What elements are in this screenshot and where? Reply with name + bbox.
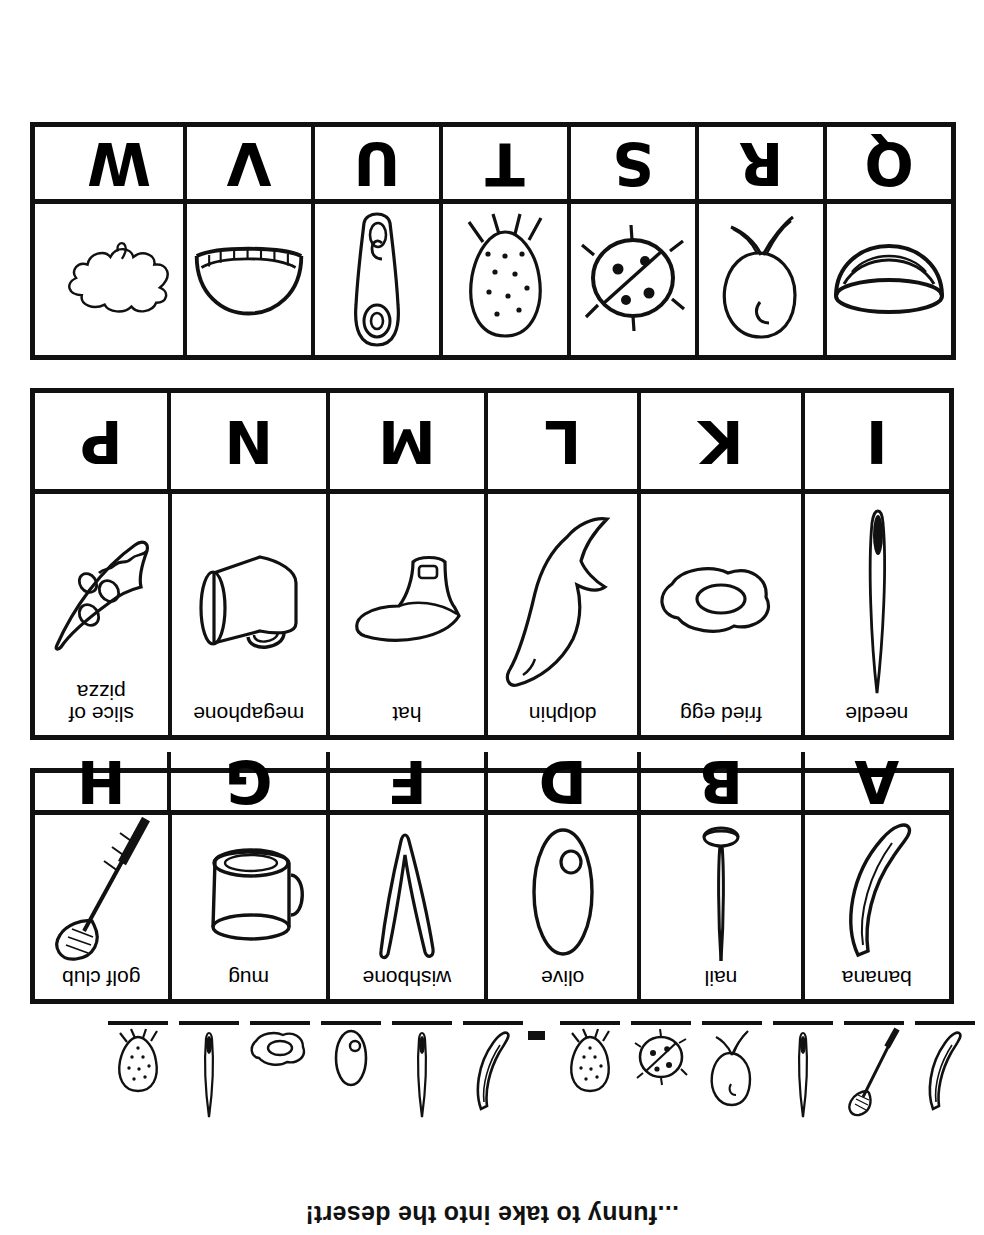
answer-separator: [524, 1021, 550, 1147]
picture-row: [35, 204, 951, 355]
ladybug-icon: [573, 206, 693, 351]
picture-label: wishbone: [363, 967, 452, 995]
picture-cell-g: mug: [168, 815, 326, 999]
picture-cell-i: needle: [801, 494, 949, 735]
answer-blank[interactable]: [179, 1021, 239, 1025]
picture-cell-s: [567, 204, 695, 355]
answer-slot[interactable]: [178, 1021, 240, 1147]
answer-slot[interactable]: [701, 1021, 763, 1147]
strawberry-icon: [111, 1027, 165, 1123]
bowl-icon: [829, 206, 949, 351]
picture-cell-r: [695, 204, 823, 355]
watermelon-icon: [189, 206, 309, 351]
needle-icon: [196, 1027, 222, 1123]
needle-icon: [409, 1027, 435, 1123]
letter-cell-b: B: [637, 752, 800, 810]
needle-icon: [807, 496, 947, 703]
picture-label: olive: [541, 967, 584, 995]
picture-cell-v: [183, 204, 311, 355]
letter-cell-u: U: [311, 127, 439, 199]
answer-blank[interactable]: [915, 1021, 975, 1025]
letter-cell-g: G: [168, 752, 326, 810]
picture-label: hat: [392, 703, 421, 731]
needle-icon: [790, 1027, 816, 1123]
answer-blank[interactable]: [702, 1021, 762, 1025]
radish-icon: [701, 206, 821, 351]
letter-cell-w: W: [55, 127, 183, 199]
picture-cell-m: hat: [326, 494, 484, 735]
picture-cell-f: wishbone: [326, 815, 484, 999]
picture-cell-t: [439, 204, 567, 355]
answer-blank[interactable]: [560, 1021, 620, 1025]
answer-blank[interactable]: [773, 1021, 833, 1025]
answer-blank[interactable]: [392, 1021, 452, 1025]
picture-cell-k: fried egg: [637, 494, 800, 735]
picture-cell-q: [823, 204, 951, 355]
answer-blank[interactable]: [463, 1021, 523, 1025]
answer-blank[interactable]: [321, 1021, 381, 1025]
picture-label: nail: [705, 967, 738, 995]
picture-cell-b: nail: [637, 815, 800, 999]
safety-pin-icon: [317, 206, 437, 351]
answer-slot[interactable]: [772, 1021, 834, 1147]
worksheet-page: ...funny to take into the desert!: [0, 0, 984, 1235]
answer-slot[interactable]: [462, 1021, 524, 1147]
radish-icon: [706, 1027, 758, 1123]
golf-club-icon: [37, 817, 166, 967]
answer-slot[interactable]: [843, 1021, 905, 1147]
answer-slot[interactable]: [391, 1021, 453, 1147]
picture-label: dolphin: [529, 703, 597, 731]
banana-icon: [923, 1027, 967, 1123]
golf-club-icon: [845, 1027, 903, 1123]
answer-slot[interactable]: [914, 1021, 976, 1147]
letter-cell-f: F: [326, 752, 484, 810]
answer-blank[interactable]: [844, 1021, 904, 1025]
strawberry-icon: [445, 206, 565, 351]
letter-row: I K L M N P: [35, 393, 949, 494]
answer-slot[interactable]: [559, 1021, 621, 1147]
answer-slot[interactable]: [107, 1021, 169, 1147]
olive-icon: [329, 1027, 373, 1123]
letter-cell-a: A: [801, 752, 949, 810]
answer-blank[interactable]: [631, 1021, 691, 1025]
letter-cell-d: D: [484, 752, 637, 810]
picture-label: mug: [228, 967, 269, 995]
nail-icon: [643, 817, 798, 967]
banana-icon: [471, 1027, 515, 1123]
letter-cell-m: M: [326, 393, 484, 489]
picture-cell-u: [311, 204, 439, 355]
answer-slot[interactable]: [320, 1021, 382, 1147]
picture-cell-h: golf club: [35, 815, 168, 999]
letter-cell-p: P: [35, 393, 168, 489]
letter-cell-r: R: [695, 127, 823, 199]
letter-cell-i: I: [801, 393, 949, 489]
answer-slot[interactable]: [249, 1021, 311, 1147]
dolphin-icon: [490, 496, 635, 703]
picture-cell-d: olive: [484, 815, 637, 999]
fried-egg-icon: [643, 496, 798, 703]
megaphone-icon: [174, 496, 324, 703]
letter-key-grid-1: banana nail olive wishbone: [30, 768, 954, 1004]
letter-key-grid-2: needle fried egg dolphin hat: [30, 388, 954, 740]
ladybug-icon: [633, 1027, 689, 1123]
letter-row: Q R S T U V W: [35, 127, 951, 204]
letter-cell-n: N: [168, 393, 326, 489]
letter-key-grid-3: Q R S T U V W: [30, 122, 956, 360]
hat-icon: [332, 496, 482, 703]
picture-label: fried egg: [680, 703, 762, 731]
answer-blank[interactable]: [250, 1021, 310, 1025]
letter-row: A B D F G H: [35, 752, 949, 815]
picture-row: needle fried egg dolphin hat: [35, 494, 949, 735]
picture-cell-a: banana: [801, 815, 949, 999]
picture-label: golf club: [62, 967, 140, 995]
picture-cell-w: [55, 204, 183, 355]
picture-cell-p: slice of pizza: [35, 494, 168, 735]
picture-label: slice of pizza: [69, 681, 134, 731]
answer-slot[interactable]: [630, 1021, 692, 1147]
answer-blank[interactable]: [108, 1021, 168, 1025]
picture-row: banana nail olive wishbone: [35, 815, 949, 999]
picture-label: megaphone: [193, 703, 304, 731]
wishbone-icon: [332, 817, 482, 967]
letter-cell-k: K: [637, 393, 800, 489]
picture-label: needle: [845, 703, 908, 731]
